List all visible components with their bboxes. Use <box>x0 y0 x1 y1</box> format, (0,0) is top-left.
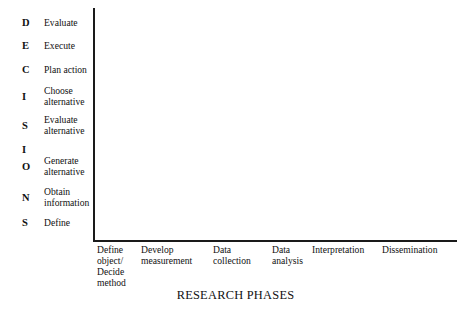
y-axis-line <box>93 8 95 242</box>
research-phase-label-line: collection <box>213 256 251 267</box>
decision-row: OGeneratealternative <box>0 155 93 179</box>
decision-stage-label: Evaluatealternative <box>44 115 93 136</box>
decisions-acronym-letter: C <box>22 64 44 75</box>
x-axis-line <box>93 240 457 242</box>
research-phase-label-line: Dissemination <box>382 245 437 256</box>
decision-stage-label-line: Generate <box>44 155 79 166</box>
decision-stage-label-line: alternative <box>44 97 93 108</box>
research-phase-label: Defineobject/Decidemethod <box>97 245 126 289</box>
decision-stage-label-line: Define <box>44 217 70 228</box>
decision-stage-label-line: Evaluate <box>44 17 78 28</box>
decision-row: CPlan action <box>0 63 93 77</box>
decision-stage-label-line: Execute <box>44 40 75 51</box>
decision-stage-label: Evaluate <box>44 18 93 29</box>
research-phase-label: Dissemination <box>382 245 437 256</box>
decision-row: NObtaininformation <box>0 186 93 210</box>
research-phase-label: Interpretation <box>312 245 364 256</box>
decision-stage-label: Obtaininformation <box>44 187 93 208</box>
research-phases-axis-labels: Defineobject/DecidemethodDevelopmeasurem… <box>0 245 471 290</box>
decisions-acronym-letter: S <box>22 217 44 228</box>
decision-row: SDefine <box>0 216 93 230</box>
research-phase-label-line: method <box>97 278 126 289</box>
x-axis-title: RESEARCH PHASES <box>0 289 471 301</box>
research-phase-label: Dataanalysis <box>272 245 303 267</box>
decisions-acronym-letter: I <box>22 91 44 102</box>
decision-stage-label-line: information <box>44 198 93 209</box>
research-decisions-figure: DEvaluateEExecuteCPlan actionIChoosealte… <box>0 0 471 310</box>
research-phase-label: Datacollection <box>213 245 251 267</box>
decision-stage-label: Execute <box>44 41 93 52</box>
decisions-axis-labels: DEvaluateEExecuteCPlan actionIChoosealte… <box>0 0 93 240</box>
decision-row: EExecute <box>0 39 93 53</box>
decision-stage-label: Generatealternative <box>44 156 93 177</box>
decision-stage-label: Define <box>44 218 93 229</box>
decision-stage-label-line: Choose <box>44 85 73 96</box>
decisions-acronym-letter: I <box>22 144 44 155</box>
research-phase-label-line: analysis <box>272 256 303 267</box>
decision-stage-label: Choosealternative <box>44 86 93 107</box>
decision-row: IChoosealternative <box>0 85 93 109</box>
decisions-acronym-letter: O <box>22 161 44 172</box>
research-phase-label-line: measurement <box>141 256 192 267</box>
decision-stage-label-line: Obtain <box>44 186 70 197</box>
research-phase-label-line: Interpretation <box>312 245 364 256</box>
research-phase-label: Developmeasurement <box>141 245 192 267</box>
decision-row: DEvaluate <box>0 16 93 30</box>
decisions-acronym-letter: S <box>22 120 44 131</box>
decision-stage-label-line: alternative <box>44 126 93 137</box>
decision-stage-label-line: Plan action <box>44 64 87 75</box>
decision-stage-label-line: Evaluate <box>44 114 78 125</box>
decisions-acronym-letter: N <box>22 192 44 203</box>
decisions-acronym-letter: E <box>22 40 44 51</box>
decision-row: SEvaluatealternative <box>0 114 93 138</box>
decisions-acronym-letter: D <box>22 17 44 28</box>
decision-stage-label: Plan action <box>44 65 93 76</box>
decision-stage-label-line: alternative <box>44 167 93 178</box>
